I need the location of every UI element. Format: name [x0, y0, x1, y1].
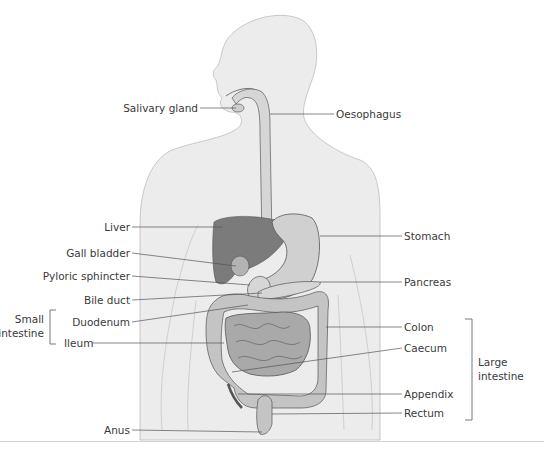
label-duodenum: Duodenum — [72, 316, 130, 328]
group-line-1: Small — [0, 312, 44, 326]
digestive-system-diagram — [0, 0, 544, 449]
label-stomach: Stomach — [404, 230, 450, 242]
label-caecum: Caecum — [404, 342, 447, 354]
label-ileum: Ileum — [64, 337, 93, 349]
label-pancreas: Pancreas — [404, 276, 451, 288]
label-gall-bladder: Gall bladder — [66, 247, 130, 259]
small-intestine-bracket — [50, 310, 56, 344]
label-rectum: Rectum — [404, 407, 444, 419]
label-pyloric-sphincter: Pyloric sphincter — [43, 270, 130, 282]
group-label-large-intestine: Large intestine — [478, 355, 524, 383]
rectum-shape — [257, 396, 272, 435]
group-line-1: Large — [478, 355, 524, 369]
label-bile-duct: Bile duct — [84, 294, 130, 306]
label-salivary-gland: Salivary gland — [123, 102, 198, 114]
group-line-2: intestine — [0, 326, 44, 340]
label-liver: Liver — [104, 221, 130, 233]
group-label-small-intestine: Small intestine — [0, 312, 44, 340]
group-line-2: intestine — [478, 369, 524, 383]
label-oesophagus: Oesophagus — [336, 108, 401, 120]
label-anus: Anus — [104, 424, 130, 436]
bottom-divider — [0, 441, 544, 442]
label-colon: Colon — [404, 321, 434, 333]
label-appendix: Appendix — [404, 388, 453, 400]
large-intestine-bracket — [465, 319, 472, 420]
small-intestine-shape — [225, 312, 310, 376]
